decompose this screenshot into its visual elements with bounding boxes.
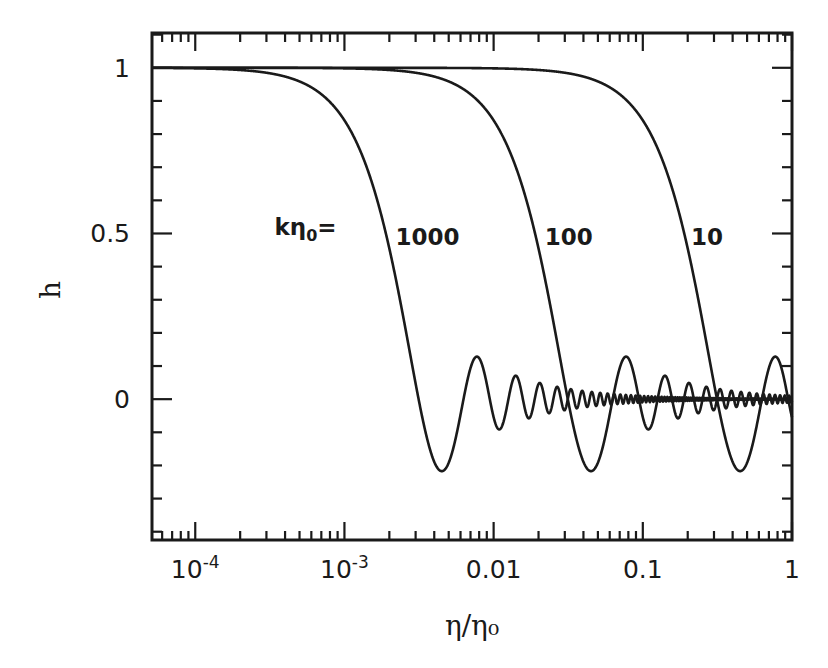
x-tick-label: 10-3	[320, 552, 369, 584]
curve-label-100: 100	[545, 224, 593, 250]
curve-labels: 100010010	[396, 224, 723, 250]
curve-keta0-100	[152, 68, 792, 471]
x-tick-label: 0.01	[466, 555, 522, 584]
k-eta0-annotation: kη0=	[275, 214, 337, 245]
y-tick-labels: 10.50	[90, 54, 130, 414]
y-tick-label: 1	[114, 54, 130, 83]
x-tick-label: 0.1	[623, 555, 663, 584]
x-tick-label: 1	[784, 555, 800, 584]
curve-label-1000: 1000	[396, 224, 460, 250]
curve-label-10: 10	[691, 224, 723, 250]
y-tick-label: 0.5	[90, 219, 130, 248]
y-axis-title: h	[34, 281, 67, 299]
x-tick-label: 10-4	[171, 552, 220, 584]
x-tick-labels: 10-410-30.010.11	[171, 552, 800, 584]
curves	[152, 68, 792, 471]
transfer-function-chart: 10-410-30.010.11 10.50 100010010 kη0= η/…	[0, 0, 828, 668]
y-tick-label: 0	[114, 385, 130, 414]
x-axis-title: η/η₀	[445, 609, 499, 642]
